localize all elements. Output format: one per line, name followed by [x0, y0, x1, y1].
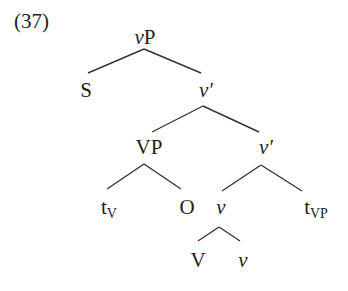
- trace-base: t: [101, 195, 107, 219]
- trace-subscript: VP: [310, 206, 328, 221]
- edge-v-V: [198, 227, 219, 241]
- node-vP: vP: [134, 27, 155, 48]
- node-VP: VP: [136, 137, 163, 158]
- edge-VP-O: [144, 164, 181, 189]
- trace-base: t: [304, 195, 310, 219]
- node-v-head: v: [216, 197, 225, 218]
- node-v-bar-2-rest: ′: [268, 135, 273, 159]
- node-S: S: [80, 80, 92, 101]
- edge-vP-S: [88, 49, 144, 73]
- node-v-affix: v: [238, 250, 247, 271]
- edge-vbar-vbar2: [203, 106, 259, 132]
- node-v-bar-2: v′: [259, 137, 273, 158]
- node-v-bar-1-rest: ′: [208, 78, 213, 102]
- node-trace-V: tV: [101, 197, 117, 218]
- node-trace-VP: tVP: [304, 197, 328, 218]
- node-O: O: [179, 197, 194, 218]
- tree-branches: [0, 0, 348, 291]
- edge-VP-tV: [107, 164, 144, 189]
- trace-subscript: V: [107, 206, 117, 221]
- edge-vP-vbar: [144, 49, 201, 73]
- node-v-bar-1: v′: [199, 80, 213, 101]
- edge-vbar2-v: [222, 165, 261, 191]
- node-V: V: [190, 250, 205, 271]
- node-v-bar-2-head: v: [259, 135, 268, 159]
- node-vP-head: v: [134, 25, 143, 49]
- node-v-bar-1-head: v: [199, 78, 208, 102]
- edge-vbar-VP: [152, 106, 203, 132]
- edge-v-vaffix: [219, 227, 240, 241]
- node-vP-rest: P: [144, 25, 156, 49]
- edge-vbar2-tVP: [261, 165, 302, 191]
